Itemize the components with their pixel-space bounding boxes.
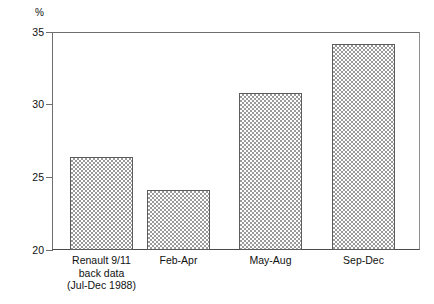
y-axis-tick-label-wrap: 35	[0, 27, 44, 38]
plot-area-frame	[52, 32, 420, 250]
y-axis-tick-label: 25	[18, 172, 44, 183]
y-axis-tick-label: 30	[18, 99, 44, 110]
y-axis-tick	[46, 32, 53, 33]
y-axis-tick	[46, 177, 53, 178]
y-axis-unit-label: %	[35, 7, 44, 18]
x-axis-category-label: Sep-Dec	[304, 254, 424, 267]
x-axis-category-labels: Renault 9/11back data(Jul-Dec 1988)Feb-A…	[0, 254, 434, 302]
y-axis-tick-label-wrap: 30	[0, 99, 44, 110]
x-axis-category-label-line: (Jul-Dec 1988)	[42, 279, 162, 292]
y-axis-tick-label-wrap: 25	[0, 172, 44, 183]
y-axis-tick	[46, 250, 53, 251]
x-axis-category-label-line: Sep-Dec	[304, 254, 424, 267]
y-axis-tick	[46, 104, 53, 105]
y-axis-tick-label: 35	[18, 27, 44, 38]
x-axis-category-label-line: back data	[42, 267, 162, 280]
bar-chart: % 35302520 Renault 9/11back data(Jul-Dec…	[0, 0, 434, 304]
